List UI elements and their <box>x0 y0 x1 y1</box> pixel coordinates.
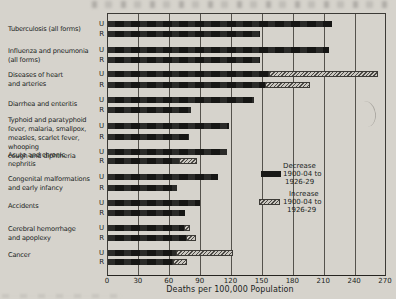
bar-r-solid-group10 <box>108 259 174 265</box>
row-label-u-group10: U <box>92 249 104 257</box>
gridline-120 <box>231 14 232 275</box>
scan-artifact-bottom <box>2 294 122 298</box>
legend-decrease-title: Decrease <box>283 162 316 170</box>
bar-r-increase-group3 <box>265 82 310 88</box>
plot-area <box>107 13 386 276</box>
bar-r-solid-group5 <box>108 134 189 140</box>
x-tick-label-270: 270 <box>373 277 396 285</box>
legend-swatch-solid <box>261 171 281 177</box>
bar-u-increase-group9 <box>184 225 190 231</box>
x-tick-label-150: 150 <box>249 277 273 285</box>
bar-r-solid-group9 <box>108 235 187 241</box>
x-tick-label-240: 240 <box>342 277 366 285</box>
legend-increase-range: 1900-04 to <box>283 198 322 206</box>
bar-u-solid-group8 <box>108 200 200 206</box>
x-tick-label-0: 0 <box>95 277 119 285</box>
bar-u-solid-group4 <box>108 97 254 103</box>
row-label-u-group7: U <box>92 173 104 181</box>
row-label-r-group3: R <box>92 81 104 89</box>
bar-u-increase-group3 <box>269 71 378 77</box>
scan-artifact-top <box>92 1 390 8</box>
row-label-r-group7: R <box>92 184 104 192</box>
bar-u-solid-group3 <box>108 71 270 77</box>
row-label-u-group8: U <box>92 199 104 207</box>
bar-u-solid-group5 <box>108 123 229 129</box>
x-tick-label-180: 180 <box>280 277 304 285</box>
row-label-u-group9: U <box>92 224 104 232</box>
bar-r-solid-group3 <box>108 82 266 88</box>
row-label-r-group1: R <box>92 30 104 38</box>
bar-r-increase-group10 <box>173 259 187 265</box>
legend-increase-years: 1926-29 <box>287 206 316 214</box>
row-label-u-group1: U <box>92 20 104 28</box>
bar-u-increase-group10 <box>176 250 233 256</box>
row-label-r-group2: R <box>92 56 104 64</box>
legend-decrease-years: 1926-29 <box>285 178 314 186</box>
bar-r-solid-group8 <box>108 210 185 216</box>
bar-u-solid-group1 <box>108 21 332 27</box>
bar-u-solid-group10 <box>108 250 177 256</box>
x-tick-label-60: 60 <box>157 277 181 285</box>
row-label-u-group2: U <box>92 46 104 54</box>
bar-r-solid-group2 <box>108 57 260 63</box>
x-axis-title: Deaths per 100,000 Population <box>128 285 332 294</box>
bar-u-solid-group2 <box>108 47 329 53</box>
gridline-90 <box>200 14 201 275</box>
gridline-210 <box>324 14 325 275</box>
row-label-u-group5: U <box>92 122 104 130</box>
bar-r-solid-group1 <box>108 31 260 37</box>
x-tick-label-210: 210 <box>311 277 335 285</box>
row-label-r-group9: R <box>92 234 104 242</box>
bar-r-solid-group7 <box>108 185 177 191</box>
row-label-r-group5: R <box>92 133 104 141</box>
row-label-u-group4: U <box>92 96 104 104</box>
bar-u-solid-group7 <box>108 174 218 180</box>
gridline-180 <box>293 14 294 275</box>
bar-u-solid-group9 <box>108 225 185 231</box>
row-label-r-group10: R <box>92 258 104 266</box>
row-label-u-group6: U <box>92 148 104 156</box>
bar-r-solid-group4 <box>108 107 191 113</box>
bar-r-increase-group6 <box>179 158 196 164</box>
bar-r-solid-group6 <box>108 158 180 164</box>
gridline-150 <box>262 14 263 275</box>
x-tick-label-30: 30 <box>126 277 150 285</box>
legend: Decrease 1900-04 to 1926-29 Increase 190… <box>256 162 342 216</box>
row-label-r-group4: R <box>92 106 104 114</box>
bar-u-solid-group6 <box>108 149 227 155</box>
legend-swatch-hatched <box>259 199 280 205</box>
x-tick-label-90: 90 <box>188 277 212 285</box>
legend-decrease-range: 1900-04 to <box>283 170 322 178</box>
legend-increase-title: Increase <box>289 190 319 198</box>
bar-r-increase-group9 <box>186 235 195 241</box>
gridline-240 <box>355 14 356 275</box>
row-label-u-group3: U <box>92 70 104 78</box>
x-tick-label-120: 120 <box>219 277 243 285</box>
row-label-r-group8: R <box>92 209 104 217</box>
row-label-r-group6: R <box>92 157 104 165</box>
chart-figure: Tuberculosis (all forms)Influenza and pn… <box>0 0 396 299</box>
